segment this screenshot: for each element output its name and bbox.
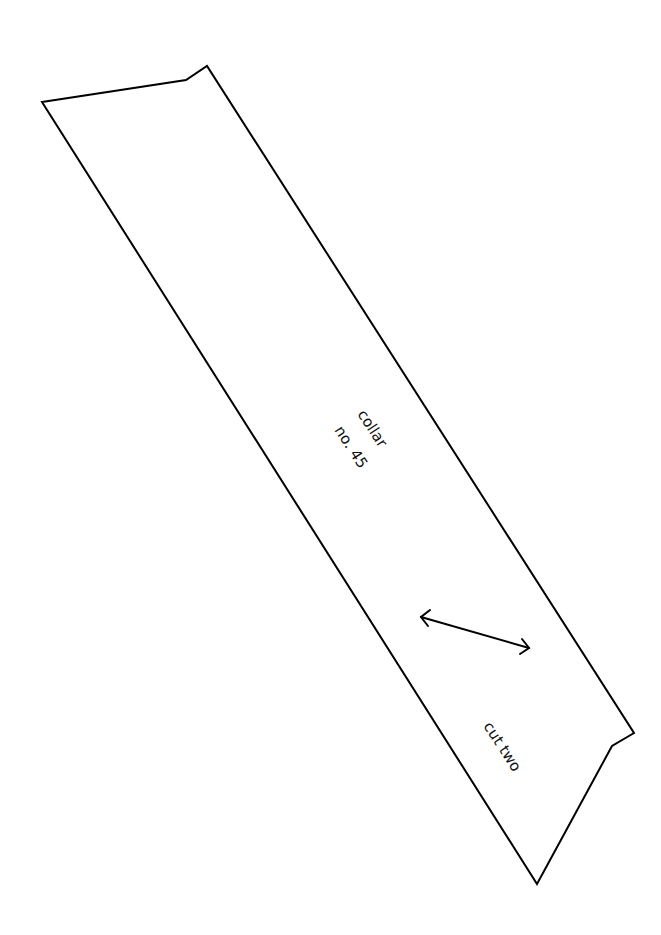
cut-instruction: cut two xyxy=(480,718,525,775)
collar-outline xyxy=(42,66,634,884)
pattern-sheet: collar no. 45 cut two xyxy=(0,0,661,935)
pattern-drawing: collar no. 45 cut two xyxy=(0,0,661,935)
grainline-arrow-icon xyxy=(421,610,529,654)
